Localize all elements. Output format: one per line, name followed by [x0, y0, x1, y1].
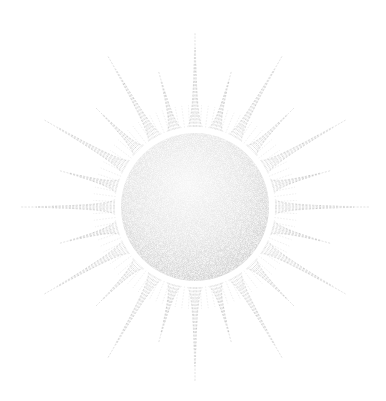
sun-illustration: Sun: [0, 0, 386, 401]
sun-icon: [0, 0, 386, 401]
sun-disc: [121, 133, 269, 281]
